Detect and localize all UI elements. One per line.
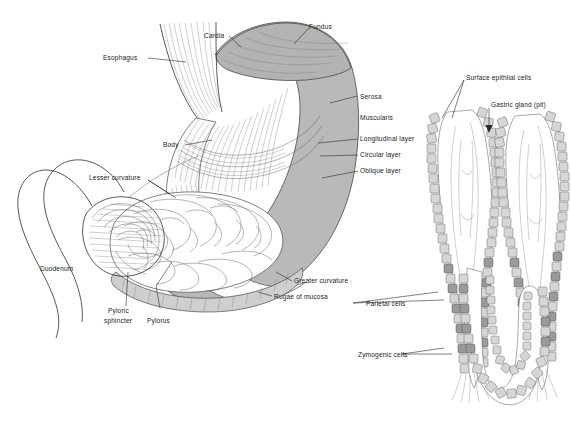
label-muscularis: Muscularis: [360, 114, 394, 121]
label-longitudinal-layer: Longitudinal layer: [360, 135, 415, 143]
label-rugae-of-mucosa: Rugae of mucosa: [274, 293, 328, 301]
label-surface-epithelial-cells: Surface epithlial cells: [466, 74, 532, 82]
label-cardia: Cardia: [204, 32, 225, 39]
label-esophagus: Esophagus: [103, 54, 138, 62]
label-circular-layer: Circular layer: [360, 151, 402, 159]
label-pylorus: Pylorus: [147, 317, 171, 325]
anatomical-figure: Esophagus Cardia Fundus Serosa Musculari…: [0, 0, 571, 436]
label-pyloric-sphincter-line1: Pyloric: [108, 307, 129, 315]
label-oblique-layer: Oblique layer: [360, 167, 401, 175]
label-pyloric-sphincter-line2: sphincter: [104, 317, 133, 325]
label-gastric-gland-pit: Gastric gland (pit): [491, 101, 546, 109]
label-lesser-curvature: Lesser curvature: [89, 174, 141, 181]
label-body: Body: [163, 141, 179, 149]
label-duodenum: Duodenum: [40, 265, 74, 272]
label-zymogenic-cells: Zymogenic cells: [358, 351, 408, 359]
label-parietal-cells: Parietal cells: [366, 300, 406, 307]
label-serosa: Serosa: [360, 93, 382, 100]
label-greater-curvature: Greater curvature: [294, 277, 348, 284]
label-fundus: Fundus: [309, 23, 332, 30]
